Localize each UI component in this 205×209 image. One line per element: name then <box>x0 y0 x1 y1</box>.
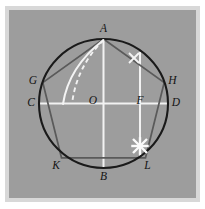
point-label-F: F <box>135 94 144 106</box>
tick-lower-right-icon <box>131 137 149 155</box>
point-label-C: C <box>27 96 35 108</box>
point-label-G: G <box>29 74 38 86</box>
point-label-O: O <box>89 94 98 106</box>
point-label-H: H <box>167 74 177 86</box>
geometry-diagram: A G H C O F D K L B <box>0 0 205 209</box>
figure-root: A G H C O F D K L B <box>0 0 205 209</box>
point-label-A: A <box>99 22 108 34</box>
point-label-K: K <box>51 159 61 171</box>
point-label-L: L <box>143 159 150 171</box>
point-label-B: B <box>100 170 107 182</box>
point-label-D: D <box>171 96 181 108</box>
